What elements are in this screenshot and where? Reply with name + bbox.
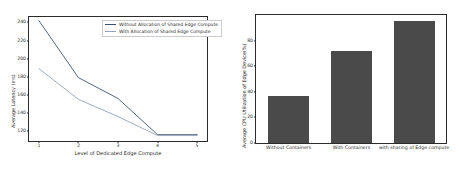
y-axis-label: Average CPU Utilization of Edge Device(%… xyxy=(242,43,247,148)
y-axis-label: Average Latency (ms) xyxy=(11,74,16,128)
bar-without-containers xyxy=(268,96,309,143)
y-tick-label: 160 xyxy=(17,93,26,98)
x-tick-label: 3 xyxy=(117,144,120,149)
bar-with-sharing-edge-compute xyxy=(394,21,435,143)
bar-chart-figure: Average CPU Utilization of Edge Device(%… xyxy=(229,0,458,175)
y-tick-label: 220 xyxy=(17,38,26,43)
y-tick-label: 200 xyxy=(17,56,26,61)
y-tick-label: 20 xyxy=(247,115,253,120)
bar-chart-axes: 0 20 40 60 80 Without Containers With Co… xyxy=(255,14,447,144)
legend-item: With Allocation of Shared Edge Compute xyxy=(105,30,218,35)
x-tick-label: With Containers xyxy=(333,146,370,151)
y-tick-label: 80 xyxy=(247,38,253,43)
y-tick-label: 0 xyxy=(250,141,253,146)
y-tick-label: 240 xyxy=(17,20,26,25)
x-tick-label: 2 xyxy=(77,144,80,149)
y-tick-label: 40 xyxy=(247,90,253,95)
y-tick-label: 180 xyxy=(17,74,26,79)
bar-with-containers xyxy=(331,51,372,143)
legend-line-swatch-icon xyxy=(105,24,116,25)
legend: Without Allocation of Shared Edge Comput… xyxy=(102,20,222,38)
legend-line-swatch-icon xyxy=(105,31,116,32)
y-tickmark xyxy=(254,66,256,67)
x-tick-label: with sharing of Edge compute xyxy=(379,146,449,151)
y-tickmark xyxy=(254,40,256,41)
x-tick-label: Without Containers xyxy=(266,146,311,151)
line-chart-axes: 120 140 160 180 200 220 240 1 2 3 4 5 xyxy=(28,16,208,142)
legend-label: Without Allocation of Shared Edge Comput… xyxy=(119,23,218,28)
y-tickmark xyxy=(254,117,256,118)
figure-pair: Average Latency (ms) 120 140 160 180 200… xyxy=(0,0,458,175)
x-axis-label: Level of Dedicated Edge Compute xyxy=(29,151,207,156)
line-chart-figure: Average Latency (ms) 120 140 160 180 200… xyxy=(0,0,229,175)
x-tick-label: 1 xyxy=(37,144,40,149)
y-tick-label: 60 xyxy=(247,64,253,69)
legend-item: Without Allocation of Shared Edge Comput… xyxy=(105,23,218,28)
x-tick-label: 5 xyxy=(196,144,199,149)
y-tick-label: 120 xyxy=(17,129,26,134)
y-tick-label: 140 xyxy=(17,111,26,116)
y-tickmark xyxy=(254,91,256,92)
legend-label: With Allocation of Shared Edge Compute xyxy=(119,30,211,35)
line-series-without-allocation xyxy=(39,21,197,135)
y-tickmark xyxy=(254,143,256,144)
x-tick-label: 4 xyxy=(156,144,159,149)
line-series-with-allocation xyxy=(39,69,197,136)
